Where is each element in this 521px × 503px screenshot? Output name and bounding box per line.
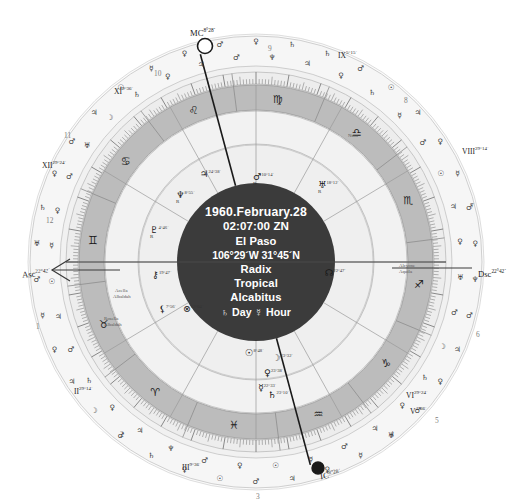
outer-ring-glyph: ♀ <box>253 38 259 46</box>
outer-ring-glyph: ♀ <box>237 463 243 471</box>
outer-ring-glyph: ♄ <box>324 50 331 58</box>
outer-ring-glyph: ♃ <box>450 203 457 211</box>
sign-glyph-leo: ♌ <box>189 103 199 116</box>
outer-ring-glyph: ♀ <box>325 466 331 474</box>
planet-northnode: ☊22°47´ <box>325 268 346 277</box>
planet-uranus-retrograde: R <box>318 189 339 194</box>
outer-ring-glyph: ☉ <box>216 475 223 483</box>
outer-ring-glyph: ♃ <box>136 427 143 435</box>
outer-ring-glyph: ♃ <box>372 425 379 433</box>
cusp-ix-degree: 5°15´ <box>346 50 357 55</box>
cusp-vi-degree: 29°24´ <box>414 390 428 395</box>
outer-ring-glyph: ♂ <box>216 41 223 49</box>
planet-neptune-retrograde: R <box>176 199 195 204</box>
outer-ring-glyph: ☉ <box>438 170 445 178</box>
outer-ring-glyph: ☉ <box>388 85 395 93</box>
outer-ring-glyph: ♂ <box>201 457 208 465</box>
outer-ring-glyph: ♀ <box>338 72 344 80</box>
house-number-3: 3 <box>256 492 260 501</box>
outer-ring-glyph: ♀ <box>457 239 463 247</box>
planet-uranus: ♅18°12´R <box>318 180 339 194</box>
planet-lilith-glyph: ⚸ <box>159 303 166 314</box>
outer-ring-glyph: ♀ <box>52 170 58 178</box>
outer-ring-glyph: ☿ <box>49 242 54 250</box>
sign-glyph-virgo: ♍ <box>273 93 283 106</box>
planet-moon: ☽23°32´ <box>272 353 293 362</box>
outer-ring-glyph: ♂ <box>466 312 473 320</box>
mc-marker-icon <box>198 39 213 54</box>
house-number-6: 6 <box>476 330 480 339</box>
outer-ring-glyph: ♀ <box>110 404 116 412</box>
cusp-label-viii: VIII29°14´ <box>462 146 489 156</box>
outer-ring-glyph: ♆ <box>269 54 276 62</box>
outer-ring-glyph: ♃ <box>289 475 296 483</box>
outer-ring-glyph: ♂ <box>66 173 73 181</box>
cusp-vi-text: VI <box>406 391 414 400</box>
outer-ring-glyph: ♀ <box>165 73 171 81</box>
planet-sun-degree: 8°48´ <box>253 348 263 353</box>
planet-pluto-degree: 4°46´ <box>158 225 168 230</box>
cusp-ix-text: IX <box>338 51 346 60</box>
outer-ring-glyph: ♂ <box>357 65 364 73</box>
planet-neptune: ♆8°55´R <box>176 190 195 204</box>
house-number-5: 5 <box>435 416 439 425</box>
outer-ring-glyph: ☿ <box>397 112 402 120</box>
outer-ring-glyph: ♄ <box>289 41 296 49</box>
planet-mars-retrograde: R <box>253 181 274 186</box>
outer-ring-glyph: ☉ <box>117 85 124 93</box>
planet-partfortune: ⊗12°04´ <box>183 304 203 313</box>
outer-ring-glyph: ♂ <box>451 310 458 318</box>
sign-glyph-capricorn: ♑ <box>381 356 391 369</box>
planet-moon-degree: 23°32´ <box>280 353 293 358</box>
outer-ring-glyph: ♂ <box>466 204 473 212</box>
planet-venus-degree: 23°38´ <box>271 368 284 373</box>
planet-partfortune-degree: 12°04´ <box>191 304 204 309</box>
outer-ring-glyph: ♃ <box>198 61 205 69</box>
sign-glyph-cancer: ♋ <box>121 155 131 168</box>
house-number-1: 1 <box>36 322 40 331</box>
outer-ring-glyph: ♂ <box>68 347 75 355</box>
outer-ring-glyph: ♃ <box>304 60 311 68</box>
outer-ring-glyph: ♃ <box>454 347 461 355</box>
outer-ring-glyph: ♃ <box>91 109 98 117</box>
planet-sun: ☉8°48´ <box>245 348 264 357</box>
sign-glyph-sagittarius: ♐ <box>414 278 424 291</box>
outer-ring-glyph: ♀ <box>182 50 188 58</box>
outer-ring-glyph: ☿ <box>40 312 45 320</box>
outer-ring-glyph: ♂ <box>33 276 40 284</box>
planet-mercury-degree: 22°33´ <box>264 383 277 388</box>
angle-asc-degree: 22°42´ <box>35 267 50 274</box>
fixed-star-nusa: Nusa <box>348 133 358 139</box>
planet-mars: ♂10°14´R <box>253 172 274 186</box>
cusp-viii-degree: 29°14´ <box>475 146 489 151</box>
planet-northnode-degree: 22°47´ <box>333 268 346 273</box>
outer-ring-glyph: ☽ <box>439 343 446 351</box>
house-number-8: 8 <box>404 96 408 105</box>
outer-ring-glyph: ♄ <box>148 452 155 460</box>
planet-chiron: ⚷19°47´ <box>152 270 171 279</box>
outer-ring-glyph: ♀ <box>399 402 405 410</box>
angle-mc-text: MC <box>190 28 203 38</box>
outer-ring-glyph: ♃ <box>68 379 75 387</box>
fixed-star-acella: Acella <box>115 288 128 294</box>
outer-ring-glyph: ♄ <box>421 374 428 382</box>
planet-venus: ♀23°38´ <box>264 368 283 377</box>
outer-ring-glyph: ♂ <box>414 407 421 415</box>
outer-ring-glyph: ♄ <box>86 377 93 385</box>
sign-glyph-aquarius: ♒ <box>313 408 323 421</box>
planet-venus-glyph: ♀ <box>264 367 271 378</box>
cusp-label-ii: II29°14´ <box>74 386 93 396</box>
angle-label-dsc: Dsc22°42´ <box>478 268 506 279</box>
outer-ring-glyph: ♄ <box>369 89 376 97</box>
fixed-star-alcyone: Alcyone <box>399 263 415 269</box>
wheel-graphic <box>0 0 521 503</box>
fixed-star-rosella: Rosella <box>104 316 118 322</box>
sign-glyph-scorpio: ♏ <box>403 193 413 206</box>
outer-ring-glyph: ♂ <box>233 54 240 62</box>
planet-jupiter: ♃24°38´ <box>200 169 221 178</box>
cusp-xii-degree: 29°24´ <box>53 160 67 165</box>
fixed-star-albaldah: Albaldah <box>113 294 131 300</box>
outer-ring-glyph: ♃ <box>55 313 62 321</box>
planet-mars-degree: 10°14´ <box>261 172 274 177</box>
outer-ring-glyph: ♃ <box>414 109 421 117</box>
